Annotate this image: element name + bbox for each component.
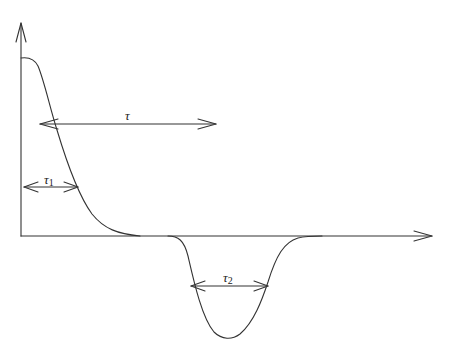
- tau-span-arrow: τ: [40, 108, 216, 129]
- x-axis: [21, 231, 432, 241]
- tau2-label: τ2: [223, 270, 233, 286]
- tau-label: τ: [125, 108, 131, 123]
- tau1-span-arrow: τ1: [24, 172, 78, 192]
- pulse-diagram: τ τ1 τ2: [0, 0, 450, 360]
- y-axis: [16, 23, 26, 236]
- curve-positive-decay: [21, 58, 140, 236]
- tau1-label: τ1: [44, 172, 54, 188]
- tau2-span-arrow: τ2: [191, 270, 268, 291]
- curve-negative-dip: [168, 236, 322, 338]
